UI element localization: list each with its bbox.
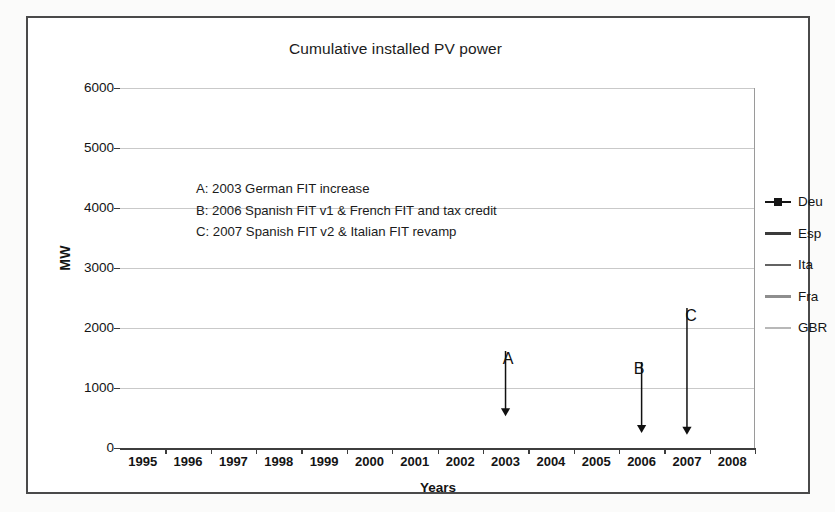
y-tick-label: 1000	[68, 380, 114, 395]
y-tick-mark	[114, 328, 120, 329]
x-axis-title: Years	[120, 480, 756, 495]
y-tick-mark	[114, 148, 120, 149]
y-tick-label: 6000	[68, 80, 114, 95]
legend-swatch-icon	[765, 258, 791, 272]
chart-title: Cumulative installed PV power	[28, 40, 763, 58]
legend-swatch-icon	[765, 321, 791, 335]
y-tick-label: 0	[68, 440, 114, 455]
legend-line-icon	[765, 264, 791, 267]
plot-area	[120, 88, 755, 448]
y-tick-mark	[114, 448, 120, 449]
y-tick-mark	[114, 88, 120, 89]
y-tick-mark	[114, 268, 120, 269]
figure-frame: Cumulative installed PV power 0100020003…	[26, 16, 810, 494]
legend-item-deu[interactable]: Deu	[765, 186, 835, 218]
y-tick-mark	[114, 208, 120, 209]
legend-line-icon	[765, 295, 791, 298]
screenshot-root: Cumulative installed PV power 0100020003…	[0, 0, 835, 512]
legend-item-ita[interactable]: Ita	[765, 249, 835, 281]
callout-label-c: C	[681, 307, 701, 325]
legend-item-fra[interactable]: Fra	[765, 281, 835, 313]
x-axis-tick-labels: 1995199619971998199920002001200220032004…	[120, 454, 756, 476]
legend-item-esp[interactable]: Esp	[765, 218, 835, 250]
callout-arrow-head-b	[637, 425, 646, 433]
chart-legend: DeuEspItaFraGBR	[765, 186, 835, 344]
callout-arrow-head-c	[682, 427, 691, 435]
legend-line-icon	[765, 327, 791, 330]
callout-arrow-head-a	[501, 408, 510, 416]
legend-label: GBR	[798, 320, 827, 335]
callout-label-b: B	[629, 360, 649, 378]
y-tick-label: 2000	[68, 320, 114, 335]
legend-line-icon	[765, 232, 791, 235]
legend-marker-square-icon	[774, 198, 782, 206]
annotation-line-a: A: 2003 German FIT increase	[196, 178, 596, 200]
legend-label: Ita	[798, 257, 813, 272]
y-tick-mark	[114, 388, 120, 389]
legend-swatch-icon	[765, 195, 791, 209]
legend-label: Esp	[798, 226, 821, 241]
annotation-line-b: B: 2006 Spanish FIT v1 & French FIT and …	[196, 200, 596, 222]
annotation-line-c: C: 2007 Spanish FIT v2 & Italian FIT rev…	[196, 221, 596, 243]
legend-label: Deu	[798, 194, 823, 209]
y-tick-label: 3000	[68, 260, 114, 275]
callout-arrows	[120, 88, 755, 448]
legend-swatch-icon	[765, 289, 791, 303]
y-tick-label: 5000	[68, 140, 114, 155]
y-axis-title: MW	[57, 213, 73, 303]
annotation-note-block: A: 2003 German FIT increase B: 2006 Span…	[196, 178, 596, 243]
legend-swatch-icon	[765, 226, 791, 240]
legend-item-gbr[interactable]: GBR	[765, 312, 835, 344]
legend-label: Fra	[798, 289, 818, 304]
callout-label-a: A	[498, 350, 518, 368]
x-tick-label: 2008	[704, 454, 760, 469]
y-tick-label: 4000	[68, 200, 114, 215]
